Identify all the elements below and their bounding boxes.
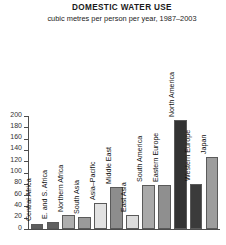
chart-title: DOMESTIC WATER USE bbox=[18, 3, 226, 13]
bars-layer: Central AfricaE. and S. AfricaNorthern A… bbox=[29, 116, 220, 229]
y-axis-tick: 160 bbox=[0, 139, 28, 140]
chart-header: DOMESTIC WATER USE cubic metres per pers… bbox=[0, 3, 226, 24]
bar-category-label: South Asia bbox=[73, 180, 81, 214]
y-axis-tick: 40 bbox=[0, 206, 28, 207]
y-axis-tick-label: 140 bbox=[10, 144, 22, 152]
bar-category-label: South America bbox=[136, 136, 144, 182]
plot-area: 020406080100120140160180200 Central Afri… bbox=[28, 116, 220, 230]
y-axis-tick-mark bbox=[24, 116, 28, 117]
y-axis-tick-mark bbox=[24, 229, 28, 230]
y-axis-tick-label: 80 bbox=[14, 178, 22, 186]
y-axis-tick-mark bbox=[24, 139, 28, 140]
y-axis-tick-label: 160 bbox=[10, 133, 22, 141]
y-axis-tick: 60 bbox=[0, 195, 28, 196]
bar-category-label: Asia–Pacific bbox=[89, 161, 97, 200]
y-axis-tick-label: 180 bbox=[10, 122, 22, 130]
y-axis-tick-mark bbox=[24, 150, 28, 151]
bar[interactable] bbox=[62, 215, 75, 229]
bar-category-label: East Asia bbox=[120, 182, 128, 212]
y-axis-tick: 120 bbox=[0, 161, 28, 162]
chart-subtitle: cubic metres per person per year, 1987–2… bbox=[18, 14, 226, 24]
bar-category-label: Central Africa bbox=[25, 178, 33, 221]
bar-category-label: North America bbox=[168, 72, 176, 117]
bar[interactable] bbox=[47, 222, 60, 229]
y-axis-tick-label: 0 bbox=[18, 224, 22, 232]
y-axis-tick-label: 40 bbox=[14, 201, 22, 209]
bar[interactable] bbox=[158, 185, 171, 229]
y-axis-tick-mark bbox=[24, 127, 28, 128]
bar[interactable] bbox=[78, 217, 91, 229]
y-axis-tick: 100 bbox=[0, 173, 28, 174]
bar-group[interactable]: Japan bbox=[206, 116, 219, 229]
y-axis-tick-mark bbox=[24, 161, 28, 162]
y-axis-tick: 80 bbox=[0, 184, 28, 185]
bar-category-label: Middle East bbox=[105, 147, 113, 184]
y-axis-tick-label: 200 bbox=[10, 111, 22, 119]
bar-category-label: Japan bbox=[200, 134, 208, 153]
bar[interactable] bbox=[206, 157, 219, 229]
bar-group[interactable]: Eastern Europe bbox=[158, 116, 171, 229]
y-axis-tick: 0 bbox=[0, 229, 28, 230]
bar[interactable] bbox=[142, 185, 155, 229]
bar-category-label: Eastern Europe bbox=[152, 133, 160, 182]
y-axis-tick: 20 bbox=[0, 218, 28, 219]
bar-group[interactable]: Middle East bbox=[110, 116, 123, 229]
bar[interactable] bbox=[190, 184, 203, 229]
y-axis-tick-label: 120 bbox=[10, 156, 22, 164]
y-axis-tick-label: 20 bbox=[14, 212, 22, 220]
domestic-water-use-chart: DOMESTIC WATER USE cubic metres per pers… bbox=[0, 0, 226, 245]
y-axis-tick: 140 bbox=[0, 150, 28, 151]
bar[interactable] bbox=[126, 215, 139, 229]
bar[interactable] bbox=[94, 203, 107, 229]
y-axis-tick-label: 100 bbox=[10, 167, 22, 175]
bar-category-label: Western Europe bbox=[184, 130, 192, 181]
x-axis-line bbox=[28, 229, 220, 230]
bar-category-label: E. and S. Africa bbox=[41, 170, 49, 219]
y-axis-tick: 200 bbox=[0, 116, 28, 117]
bar-category-label: Northern Africa bbox=[57, 165, 65, 212]
y-axis-tick-mark bbox=[24, 173, 28, 174]
y-axis-tick: 180 bbox=[0, 127, 28, 128]
bar[interactable] bbox=[31, 224, 44, 229]
bar-group[interactable]: Western Europe bbox=[190, 116, 203, 229]
y-axis-tick-label: 60 bbox=[14, 190, 22, 198]
